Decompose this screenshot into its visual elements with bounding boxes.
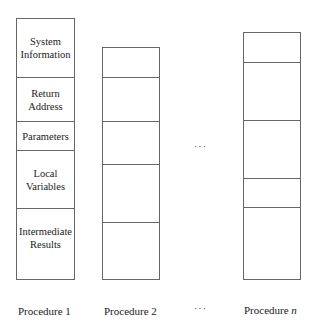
procedure-1-frame: System Information Return Address Parame… <box>16 18 75 280</box>
segment <box>103 77 159 122</box>
segment <box>244 33 300 62</box>
segment-system-information: System Information <box>17 19 74 77</box>
segment-return-address: Return Address <box>17 77 74 122</box>
segment-label: Local Variables <box>17 167 74 193</box>
segment <box>103 164 159 223</box>
segment <box>103 222 159 281</box>
segment-label: Parameters <box>22 130 69 143</box>
procedure-2-frame <box>102 47 160 280</box>
segment-intermediate-results: Intermediate Results <box>17 208 74 281</box>
segment-local-variables: Local Variables <box>17 150 74 209</box>
segment <box>244 207 300 281</box>
procedure-n-label-prefix: Procedure <box>244 304 291 316</box>
ellipsis-middle: ··· <box>194 141 207 152</box>
segment-label: Return Address <box>17 87 74 113</box>
segment <box>244 120 300 179</box>
segment <box>244 62 300 121</box>
segment <box>103 48 159 77</box>
ellipsis-bottom: ··· <box>194 303 207 314</box>
procedure-n-label-var: n <box>291 304 297 316</box>
segment-label: Intermediate Results <box>17 225 74 251</box>
segment <box>244 178 300 208</box>
procedure-1-label: Procedure 1 <box>18 305 71 317</box>
segment <box>103 121 159 165</box>
procedure-2-label: Procedure 2 <box>104 305 157 317</box>
procedure-n-frame <box>243 32 301 280</box>
procedure-n-label: Procedure n <box>244 304 297 316</box>
segment-parameters: Parameters <box>17 121 74 151</box>
segment-label: System Information <box>17 35 74 61</box>
